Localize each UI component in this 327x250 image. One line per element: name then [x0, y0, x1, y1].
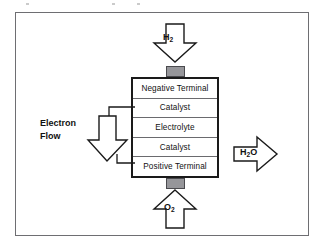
water-subscript: 2 — [247, 151, 251, 158]
layer-label: Negative Terminal — [141, 84, 208, 93]
electron-flow-line1: Electron — [40, 117, 76, 130]
oxygen-inlet-label: O2 — [164, 203, 175, 212]
hydrogen-inlet-label: H2 — [163, 33, 173, 42]
bottom-terminal-tab — [166, 178, 185, 189]
water-oxygen-symbol: O — [250, 147, 257, 157]
electron-circuit-path — [85, 104, 137, 170]
scan-artifact — [112, 3, 115, 5]
water-outlet-label: H2O — [240, 148, 257, 157]
layer-positive-terminal: Positive Terminal — [133, 157, 217, 176]
layer-electrolyte: Electrolyte — [133, 118, 217, 138]
layer-label: Catalyst — [160, 103, 190, 112]
hydrogen-inlet-arrow — [151, 23, 199, 63]
oxygen-subscript: 2 — [171, 206, 175, 213]
fuel-cell-diagram: H2 Negative Terminal Catalyst Electrolyt… — [0, 0, 327, 250]
layer-label: Positive Terminal — [143, 162, 206, 171]
oxygen-symbol: O — [164, 202, 171, 212]
electron-flow-line2: Flow — [40, 130, 76, 143]
scan-artifact — [26, 3, 29, 5]
layer-negative-terminal: Negative Terminal — [133, 79, 217, 99]
electron-flow-label: Electron Flow — [40, 117, 76, 143]
layer-label: Electrolyte — [155, 123, 194, 132]
oxygen-inlet-arrow — [151, 189, 199, 229]
layer-catalyst-bottom: Catalyst — [133, 138, 217, 158]
scan-artifact — [137, 3, 140, 5]
layer-label: Catalyst — [160, 143, 190, 152]
hydrogen-subscript: 2 — [170, 36, 174, 43]
layer-catalyst-top: Catalyst — [133, 99, 217, 119]
fuel-cell-stack: Negative Terminal Catalyst Electrolyte C… — [131, 77, 219, 178]
hydrogen-symbol: H — [163, 32, 170, 42]
top-terminal-tab — [166, 66, 185, 77]
water-symbol: H — [240, 147, 247, 157]
